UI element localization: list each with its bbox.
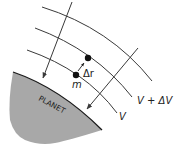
label-displacement: Δr (83, 68, 95, 79)
label-potential-inner: V (119, 111, 127, 122)
field-arrow-right (87, 48, 138, 109)
equipotential-diagram: PLANET Δr m V + ΔV V (0, 0, 180, 147)
field-arrow-left (43, 2, 72, 78)
equipotential-line-v-plus-delta-v (35, 28, 132, 97)
equipotential-line-outermost (42, 7, 152, 81)
label-potential-outer: V + ΔV (137, 95, 173, 106)
label-mass: m (72, 79, 82, 90)
mass-point-m (73, 72, 79, 78)
mass-point-displaced (85, 55, 91, 61)
